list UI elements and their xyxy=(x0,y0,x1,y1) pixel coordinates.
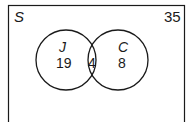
universal-set-rectangle xyxy=(9,6,185,123)
set-j-label: J xyxy=(59,40,66,54)
intersection-count: 4 xyxy=(88,56,96,70)
set-c-only-count: 8 xyxy=(118,56,126,70)
universal-set-label: S xyxy=(14,9,24,24)
set-c-label: C xyxy=(118,40,128,54)
set-j-only-count: 19 xyxy=(56,56,72,70)
universal-total: 35 xyxy=(164,9,181,24)
